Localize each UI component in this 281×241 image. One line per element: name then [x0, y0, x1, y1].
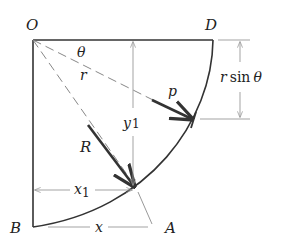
label-O: O: [26, 16, 38, 34]
label-D: D: [204, 16, 217, 34]
label-x1: x1: [74, 181, 90, 200]
pressure-arrow-p: [152, 100, 192, 119]
line-to-A: [138, 192, 152, 224]
quarter-circle-gate-diagram: O D B A θ r p R y1 x1 x rsinθ: [0, 0, 281, 241]
resultant-arrow-R: [88, 125, 134, 186]
radius-to-A-dashed: [33, 40, 135, 186]
label-A: A: [163, 219, 176, 237]
label-y1: y1: [122, 115, 140, 131]
label-B: B: [9, 219, 21, 237]
label-p: p: [168, 83, 177, 99]
label-r: r: [80, 67, 88, 83]
label-x: x: [95, 219, 103, 235]
label-theta: θ: [77, 44, 86, 60]
label-R: R: [79, 138, 91, 156]
quarter-arc-DB: [33, 40, 213, 227]
label-r-sin-theta: rsinθ: [220, 69, 262, 85]
